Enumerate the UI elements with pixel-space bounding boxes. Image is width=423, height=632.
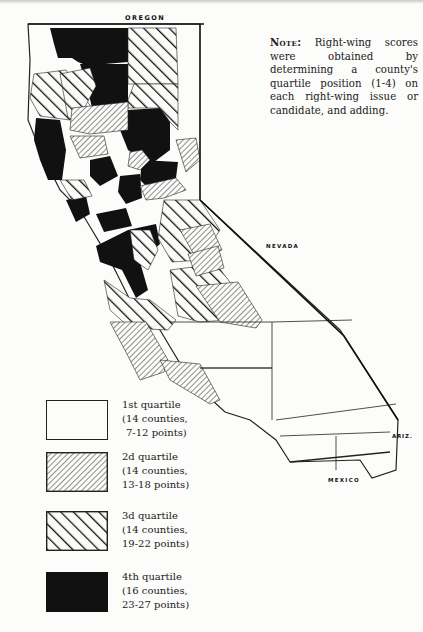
legend-swatch-wide-hatch <box>46 511 108 551</box>
legend-item-q3: 3d quartile (14 counties, 19-22 points) <box>46 511 189 551</box>
nevada-label: NEVADA <box>266 243 299 249</box>
legend-item-q4: 4th quartile (16 counties, 23-27 points) <box>46 572 189 612</box>
legend-title: 3d quartile <box>122 509 189 523</box>
legend-swatch-blank <box>46 400 108 440</box>
note-text: Right-wing scores were obtained by deter… <box>270 37 418 116</box>
oregon-label: OREGON <box>125 14 165 22</box>
legend-counties: (14 counties, <box>122 464 189 478</box>
legend-points: 23-27 points) <box>122 598 189 612</box>
legend-title: 1st quartile <box>122 398 188 412</box>
legend-counties: (14 counties, <box>122 412 188 426</box>
legend-swatch-fine-hatch <box>46 452 108 492</box>
mexico-label: MEXICO <box>328 477 360 483</box>
book-page: OREGON NEVADA ARIZ. MEXICO Note: Right-w… <box>0 0 423 632</box>
arizona-label: ARIZ. <box>392 433 413 439</box>
legend-title: 4th quartile <box>122 570 189 584</box>
note-lead: Note: <box>270 36 301 48</box>
legend-swatch-solid <box>46 572 108 612</box>
legend-counties: (14 counties, <box>122 523 189 537</box>
legend-points: 13-18 points) <box>122 478 189 492</box>
map-note: Note: Right-wing scores were obtained by… <box>270 36 418 118</box>
legend-title: 2d quartile <box>122 450 189 464</box>
legend-item-q2: 2d quartile (14 counties, 13-18 points) <box>46 452 189 492</box>
legend-item-q1: 1st quartile (14 counties, 7-12 points) <box>46 400 188 440</box>
legend-counties: (16 counties, <box>122 584 189 598</box>
legend-points: 7-12 points) <box>126 426 188 440</box>
legend-points: 19-22 points) <box>122 537 189 551</box>
